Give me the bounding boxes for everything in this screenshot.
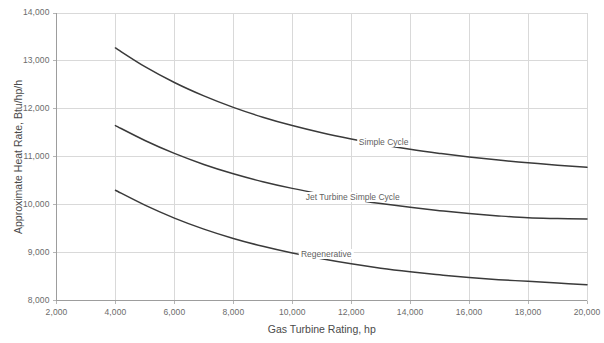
x-tick-label: 6,000: [144, 307, 204, 317]
y-tick-label: 11,000: [24, 151, 50, 161]
x-tick-label: 12,000: [321, 307, 381, 317]
x-tick-label: 8,000: [203, 307, 263, 317]
x-tick-label: 18,000: [498, 307, 558, 317]
y-tick-label: 10,000: [23, 199, 50, 209]
x-tick-label: 2,000: [27, 307, 87, 317]
x-tick-label: 10,000: [262, 307, 322, 317]
series-label: Jet Turbine Simple Cycle: [304, 192, 402, 202]
x-tick-label: 20,000: [557, 307, 604, 317]
y-tick-label: 14,000: [23, 7, 50, 17]
series-label: Simple Cycle: [357, 137, 411, 147]
x-tick-label: 14,000: [380, 307, 440, 317]
y-tick-label: 13,000: [23, 55, 50, 65]
axis-lines-group: [53, 13, 588, 304]
series-label: Regenerative: [299, 249, 354, 259]
y-tick-label: 9,000: [28, 247, 50, 257]
y-axis-title: Approximate Heat Rate, Btu/hp/h: [12, 80, 24, 234]
x-tick-label: 4,000: [85, 307, 145, 317]
chart-container: 8,0009,00010,00011,00012,00013,00014,000…: [0, 0, 604, 343]
x-axis-title: Gas Turbine Rating, hp: [268, 323, 376, 335]
chart-plot-svg: [0, 0, 604, 343]
y-tick-label: 12,000: [23, 103, 50, 113]
x-tick-label: 16,000: [439, 307, 499, 317]
y-tick-label: 8,000: [28, 295, 50, 305]
